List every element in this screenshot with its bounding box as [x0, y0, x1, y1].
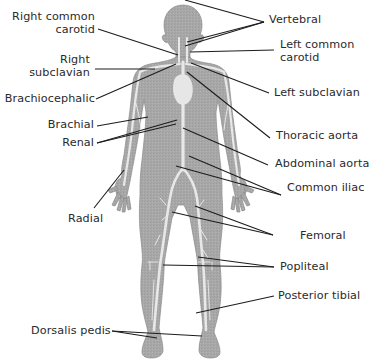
head	[162, 5, 203, 58]
label-brachiocephalic: Brachiocephalic	[5, 92, 95, 105]
label-common-iliac: Common iliac	[287, 181, 364, 194]
label-popliteal: Popliteal	[280, 260, 329, 273]
label-left-subclavian: Left subclavian	[274, 86, 360, 99]
label-right-subclavian: Right subclavian	[29, 53, 90, 79]
leader-left-common-carotid	[190, 50, 274, 52]
label-femoral: Femoral	[300, 229, 346, 242]
label-right-common-carotid: Right common carotid	[12, 10, 95, 36]
label-radial: Radial	[68, 212, 103, 225]
label-brachial: Brachial	[48, 118, 94, 131]
label-vertebral: Vertebral	[269, 13, 321, 26]
label-renal: Renal	[62, 136, 94, 149]
label-abdominal-aorta: Abdominal aorta	[275, 157, 369, 170]
label-dorsalis-pedis: Dorsalis pedis	[31, 324, 111, 337]
label-left-common-carotid: Left common carotid	[280, 38, 354, 64]
label-thoracic-aorta: Thoracic aorta	[276, 129, 358, 142]
label-posterior-tibial: Posterior tibial	[278, 289, 360, 302]
